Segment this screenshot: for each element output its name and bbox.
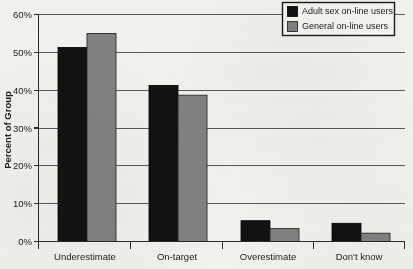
legend-label-adult-sex-online-users: Adult sex on-line users bbox=[302, 6, 394, 16]
x-axis-tick-labels: Underestimate On-target Overestimate Don… bbox=[54, 251, 382, 262]
bar-dont-know-adult-sex-online-users bbox=[332, 223, 361, 241]
x-tick-label-overestimate: Overestimate bbox=[240, 251, 297, 262]
legend-entry-adult-sex-online-users: Adult sex on-line users bbox=[288, 6, 394, 16]
legend-entry-general-online-users: General on-line users bbox=[288, 21, 389, 31]
gray-square-swatch bbox=[288, 22, 298, 32]
chart-legend: Adult sex on-line users General on-line … bbox=[283, 3, 395, 36]
x-tick-label-dont-know: Don't know bbox=[336, 251, 383, 262]
bars bbox=[58, 34, 390, 242]
bar-underestimate-adult-sex-online-users bbox=[58, 48, 87, 242]
x-tick-label-on-target: On-target bbox=[157, 251, 197, 262]
bar-chart: 60% 50% 40% 30% 20% 10% 0% Percent of Gr… bbox=[0, 0, 413, 269]
legend-label-general-online-users: General on-line users bbox=[302, 21, 389, 31]
x-axis: Underestimate On-target Overestimate Don… bbox=[38, 242, 405, 263]
bar-on-target-general-online-users bbox=[178, 95, 207, 241]
y-axis-tick-labels: 60% 50% 40% 30% 20% 10% 0% bbox=[13, 9, 33, 247]
black-square-swatch bbox=[288, 7, 298, 17]
x-tick-label-underestimate: Underestimate bbox=[54, 251, 116, 262]
y-axis: 60% 50% 40% 30% 20% 10% 0% Percent of Gr… bbox=[2, 9, 39, 247]
chart-canvas: 60% 50% 40% 30% 20% 10% 0% Percent of Gr… bbox=[0, 0, 413, 269]
bar-on-target-adult-sex-online-users bbox=[149, 85, 178, 241]
bar-overestimate-general-online-users bbox=[270, 229, 299, 242]
bar-underestimate-general-online-users bbox=[87, 34, 116, 242]
y-axis-ticks bbox=[34, 15, 38, 242]
y-tick-label-50: 50% bbox=[13, 47, 33, 58]
bar-dont-know-general-online-users bbox=[361, 233, 390, 241]
y-tick-label-40: 40% bbox=[13, 85, 33, 96]
y-tick-label-60: 60% bbox=[13, 9, 33, 20]
y-tick-label-10: 10% bbox=[13, 198, 33, 209]
y-axis-title: Percent of Group bbox=[2, 91, 13, 169]
x-axis-ticks bbox=[39, 242, 405, 250]
y-tick-label-20: 20% bbox=[13, 160, 33, 171]
bar-overestimate-adult-sex-online-users bbox=[241, 221, 270, 242]
y-tick-label-0: 0% bbox=[18, 236, 32, 247]
y-tick-label-30: 30% bbox=[13, 123, 33, 134]
